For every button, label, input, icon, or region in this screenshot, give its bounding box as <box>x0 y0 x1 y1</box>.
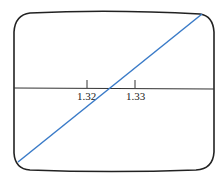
tick-label-1-33: 1.33 <box>126 90 146 102</box>
calculator-screen: 1.32 1.33 <box>0 0 224 179</box>
x-axis <box>14 88 214 89</box>
tick-label-1-32: 1.32 <box>77 90 96 102</box>
screen-frame <box>14 11 214 171</box>
